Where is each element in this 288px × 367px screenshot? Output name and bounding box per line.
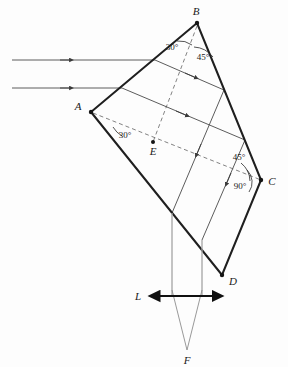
aperture-label-L: L: [134, 290, 141, 302]
angle-labels-group: 30° 45° 30° 45° 90°: [119, 42, 247, 191]
vertex-label-E: E: [149, 145, 157, 157]
converge-ray-left: [172, 290, 187, 350]
vertex-dot-C: [259, 178, 263, 182]
angle-arc-B-left: [177, 41, 192, 45]
angle-arcs-group: [113, 41, 252, 192]
angle-label-B-right: 45°: [197, 52, 210, 62]
angle-label-C-upper: 45°: [233, 152, 246, 162]
vertex-dot-A: [89, 110, 93, 114]
prism-outline-group: [91, 23, 261, 275]
vertex-label-F: F: [183, 354, 191, 366]
ray-diagram-svg: A B C D E F L 30° 45° 30° 45° 90°: [0, 0, 288, 367]
prism-edge-BC: [197, 23, 261, 180]
refracted-ray-top-arrow: [185, 73, 197, 78]
reflected-ray-top-arrow: [196, 144, 201, 156]
angle-label-A: 30°: [119, 130, 132, 140]
angle-arc-C-lower: [247, 170, 252, 192]
angle-label-B-left: 30°: [166, 42, 179, 52]
reflected-ray-bottom-arrow: [226, 173, 231, 185]
vertex-dot-E: [151, 140, 155, 144]
vertex-label-A: A: [74, 100, 82, 112]
vertex-dot-D: [220, 273, 224, 277]
exit-rays-group: [172, 213, 202, 297]
vertex-dot-B: [195, 21, 199, 25]
refracted-ray-bottom-arrow: [176, 111, 188, 116]
prism-edge-CD: [222, 180, 261, 275]
vertex-label-D: D: [228, 275, 237, 287]
internal-rays-group: [122, 60, 245, 240]
angle-label-C-lower: 90°: [234, 181, 247, 191]
figure-canvas: A B C D E F L 30° 45° 30° 45° 90°: [0, 0, 288, 367]
converge-ray-right: [187, 290, 202, 350]
vertex-label-B: B: [193, 5, 200, 17]
converging-rays-group: [172, 290, 202, 350]
incoming-rays-group: [12, 60, 155, 88]
vertex-label-C: C: [268, 175, 276, 187]
